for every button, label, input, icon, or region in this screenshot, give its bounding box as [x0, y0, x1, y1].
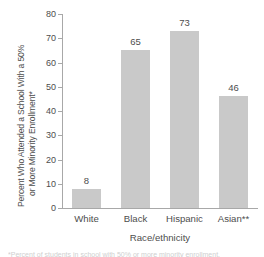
y-tick-mark — [58, 63, 62, 64]
y-tick-label: 60 — [46, 58, 56, 67]
plot-area: 01020304050607080 8657346 WhiteBlackHisp… — [62, 14, 258, 208]
bar-value-label: 46 — [214, 83, 254, 93]
y-tick-label: 40 — [46, 107, 56, 116]
x-tick-label-black: Black — [111, 213, 160, 224]
y-tick-mark — [58, 184, 62, 185]
bar-black — [121, 50, 150, 208]
bar-chart-figure: Percent Who Attended a School With a 50%… — [0, 0, 264, 257]
bar-value-label: 8 — [67, 176, 107, 186]
x-tick-label-white: White — [62, 213, 111, 224]
y-tick-label: 80 — [46, 10, 56, 19]
y-axis-title-line-2: or More Minority Enrollment* — [27, 91, 37, 196]
y-tick-label: 20 — [46, 155, 56, 164]
bar-value-label: 65 — [116, 37, 156, 47]
y-tick-label: 50 — [46, 82, 56, 91]
y-tick-mark — [58, 208, 62, 209]
y-tick-label: 30 — [46, 131, 56, 140]
y-tick-label: 10 — [46, 179, 56, 188]
bar-hispanic — [170, 31, 199, 208]
bar-asian — [219, 96, 248, 208]
y-tick-mark — [58, 111, 62, 112]
y-tick-mark — [58, 87, 62, 88]
bar-value-label: 73 — [165, 18, 205, 28]
footnote-text: *Percent of students in school with 50% … — [8, 250, 258, 257]
y-axis-line — [62, 14, 63, 208]
y-tick-label: 70 — [46, 34, 56, 43]
y-tick-label: 0 — [51, 204, 56, 213]
y-tick-mark — [58, 38, 62, 39]
bar-white — [72, 189, 101, 208]
x-tick-label-hispanic: Hispanic — [160, 213, 209, 224]
x-axis-title: Race/ethnicity — [62, 232, 258, 243]
y-tick-mark — [58, 135, 62, 136]
y-axis-title-line-1: Percent Who Attended a School With a 50% — [16, 45, 26, 207]
x-axis-line — [62, 208, 258, 209]
x-tick-label-asian: Asian** — [209, 213, 258, 224]
y-tick-mark — [58, 160, 62, 161]
y-tick-mark — [58, 14, 62, 15]
y-axis-title: Percent Who Attended a School With a 50%… — [0, 0, 44, 215]
